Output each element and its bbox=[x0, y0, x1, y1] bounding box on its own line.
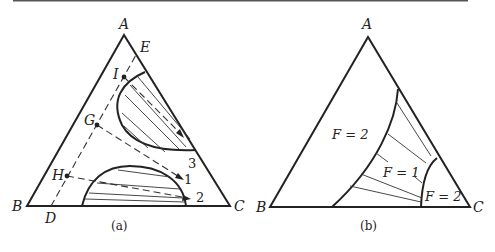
point-G bbox=[95, 123, 100, 128]
point-I bbox=[122, 75, 127, 80]
panel-a: A E I G H B D C 3 1 2 (a) bbox=[11, 16, 245, 233]
panel-b: A B C F = 2 F = 1 F = 2 (b) bbox=[255, 16, 484, 233]
arrow-I-3 bbox=[124, 77, 182, 135]
label-B: B bbox=[11, 198, 22, 214]
label-A-b: A bbox=[360, 16, 372, 32]
label-D: D bbox=[44, 210, 56, 226]
label-1: 1 bbox=[184, 172, 192, 187]
point-H bbox=[65, 174, 70, 179]
label-A: A bbox=[117, 16, 129, 32]
label-C-b: C bbox=[473, 199, 484, 215]
tie-lines-b bbox=[350, 103, 431, 202]
region-middle-label: F = 1 bbox=[382, 165, 419, 180]
triangle-b bbox=[270, 37, 470, 207]
label-E: E bbox=[139, 39, 150, 55]
label-B-b: B bbox=[255, 199, 266, 215]
arrowhead-2 bbox=[182, 195, 191, 201]
caption-a: (a) bbox=[111, 219, 128, 233]
label-G: G bbox=[84, 112, 95, 128]
region-right-label: F = 2 bbox=[424, 189, 461, 204]
label-3: 3 bbox=[188, 156, 196, 171]
label-2: 2 bbox=[196, 190, 204, 205]
binodal-upper bbox=[117, 72, 196, 150]
ternary-diagrams: A E I G H B D C 3 1 2 (a) A B C F = 2 F … bbox=[0, 0, 495, 252]
label-H: H bbox=[51, 167, 65, 183]
arrowhead-1 bbox=[175, 173, 184, 180]
caption-b: (b) bbox=[360, 219, 377, 233]
label-I: I bbox=[112, 66, 119, 82]
region-left-label: F = 2 bbox=[331, 127, 368, 142]
label-C: C bbox=[234, 198, 245, 214]
